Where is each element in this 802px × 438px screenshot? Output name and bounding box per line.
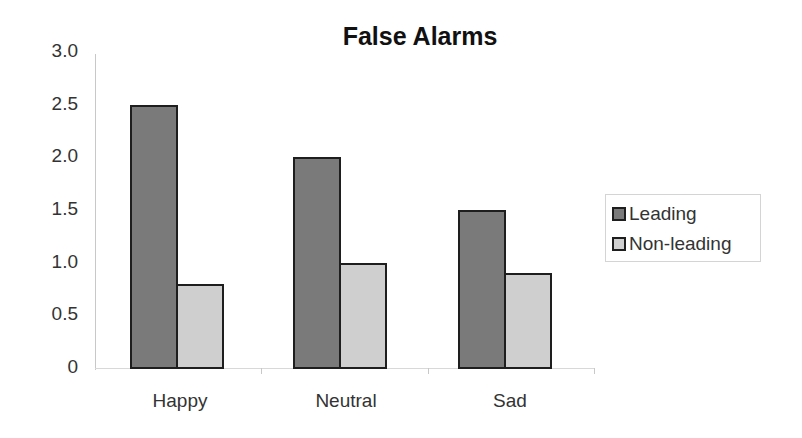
bar-neutral-non-leading xyxy=(339,263,387,369)
legend-swatch-icon xyxy=(612,207,626,221)
x-tick-mark xyxy=(428,368,429,374)
bar-sad-non-leading xyxy=(504,273,552,369)
y-tick-label: 1.5 xyxy=(18,198,78,220)
y-tick-label: 0.5 xyxy=(18,303,78,325)
y-tick-label: 2.0 xyxy=(18,145,78,167)
bar-sad-leading xyxy=(458,210,506,369)
bar-neutral-leading xyxy=(293,157,341,369)
y-axis xyxy=(95,54,96,370)
legend-label: Leading xyxy=(629,203,697,225)
bar-happy-leading xyxy=(130,105,178,369)
legend: Leading Non-leading xyxy=(605,194,761,262)
bar-happy-non-leading xyxy=(176,284,224,369)
legend-label: Non-leading xyxy=(629,233,731,255)
legend-item-non-leading: Non-leading xyxy=(612,231,731,257)
x-category-label: Sad xyxy=(450,390,570,412)
y-tick-label: 1.0 xyxy=(18,251,78,273)
bar-chart: False Alarms 0 0.5 1.0 1.5 2.0 2.5 3.0 H… xyxy=(0,0,802,438)
x-tick-mark xyxy=(594,368,595,374)
legend-item-leading: Leading xyxy=(612,201,697,227)
y-tick-label: 0 xyxy=(18,356,78,378)
y-tick-label: 2.5 xyxy=(18,93,78,115)
chart-title: False Alarms xyxy=(260,22,580,51)
x-category-label: Neutral xyxy=(286,390,406,412)
x-tick-mark xyxy=(261,368,262,374)
x-category-label: Happy xyxy=(120,390,240,412)
legend-swatch-icon xyxy=(612,237,626,251)
y-tick-label: 3.0 xyxy=(18,40,78,62)
